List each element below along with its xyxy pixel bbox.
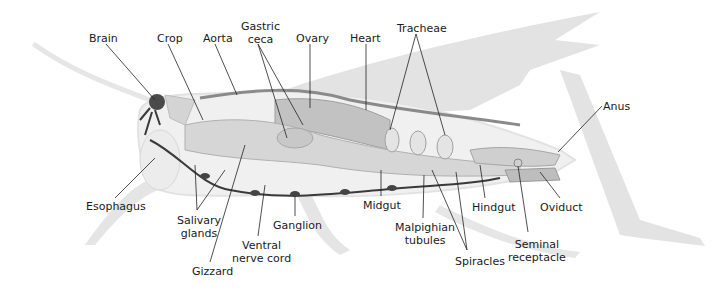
label-spiracles: Spiracles bbox=[455, 255, 505, 268]
label-heart: Heart bbox=[350, 32, 381, 45]
oviduct-organ bbox=[505, 168, 560, 182]
grasshopper-anatomy-diagram: Brain Crop Aorta Gastric ceca Ovary Hear… bbox=[0, 0, 724, 289]
head bbox=[140, 130, 180, 190]
label-esophagus: Esophagus bbox=[86, 200, 146, 213]
antenna bbox=[35, 45, 150, 100]
air-sac-2 bbox=[410, 131, 426, 155]
label-ovary: Ovary bbox=[296, 32, 329, 45]
ganglion-5 bbox=[387, 185, 397, 191]
label-anus: Anus bbox=[603, 100, 630, 113]
label-gizzard: Gizzard bbox=[192, 265, 233, 278]
ganglion-1 bbox=[200, 173, 210, 179]
label-seminal-receptacle: Seminal receptacle bbox=[508, 238, 566, 264]
label-malpighian-tubules: Malpighian tubules bbox=[395, 221, 455, 247]
seminal-receptacle-organ bbox=[514, 159, 522, 167]
label-midgut: Midgut bbox=[363, 199, 401, 212]
ganglion-4 bbox=[340, 189, 350, 195]
hind-leg bbox=[560, 70, 705, 246]
label-ganglion: Ganglion bbox=[273, 219, 322, 232]
air-sac-1 bbox=[385, 128, 399, 152]
air-sac-3 bbox=[437, 135, 453, 159]
label-tracheae: Tracheae bbox=[397, 22, 447, 35]
label-hindgut: Hindgut bbox=[472, 201, 516, 214]
label-crop: Crop bbox=[157, 32, 183, 45]
label-aorta: Aorta bbox=[203, 32, 233, 45]
gastric-ceca-organ bbox=[277, 128, 313, 148]
label-salivary-glands: Salivary glands bbox=[177, 214, 221, 240]
label-ventral-nerve-cord: Ventral nerve cord bbox=[232, 239, 291, 265]
label-oviduct: Oviduct bbox=[540, 201, 583, 214]
label-brain: Brain bbox=[89, 32, 118, 45]
label-gastric-ceca: Gastric ceca bbox=[241, 20, 280, 46]
ganglion-2 bbox=[250, 190, 260, 196]
